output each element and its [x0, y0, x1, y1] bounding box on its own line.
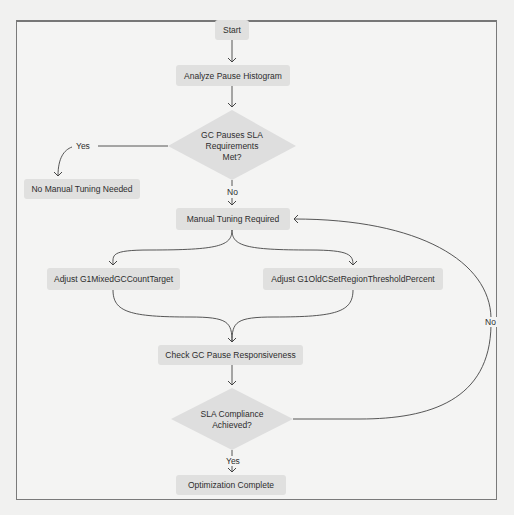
edge-adjust-mixed-check [113, 290, 232, 342]
edge-decision2-no [293, 325, 491, 419]
decision1-text: GC Pauses SLA Requirements Met? [182, 128, 282, 164]
node-adjust-g1oldcsetregionthresholdpercent: Adjust G1OldCSetRegionThresholdPercent [263, 268, 443, 290]
decision1-line3: Met? [223, 152, 242, 163]
node-check-gc-pause-responsiveness: Check GC Pause Responsiveness [158, 345, 303, 365]
edge-manual-adjust-old [232, 230, 353, 265]
edge-label-decision1-yes: Yes [75, 141, 91, 151]
decision1-line1: GC Pauses SLA [201, 130, 263, 141]
node-analyze-pause-histogram: Analyze Pause Histogram [176, 65, 290, 86]
decision2-line2: Achieved? [212, 420, 252, 431]
edge-adjust-old-check [232, 290, 353, 342]
edge-label-decision2-yes: Yes [225, 456, 241, 466]
decision1-line2: Requirements [206, 141, 259, 152]
edge-manual-adjust-mixed [113, 230, 232, 265]
node-no-manual-tuning-needed: No Manual Tuning Needed [24, 179, 140, 199]
edge-label-decision1-no: No [226, 187, 239, 197]
node-adjust-g1mixedgccounttarget: Adjust G1MixedGCCountTarget [47, 268, 180, 290]
decision2-text: SLA Compliance Achieved? [182, 408, 282, 432]
edge-label-decision2-no: No [484, 317, 497, 327]
node-start: Start [215, 20, 249, 40]
node-optimization-complete: Optimization Complete [176, 475, 286, 495]
node-manual-tuning-required: Manual Tuning Required [176, 208, 290, 230]
decision2-line1: SLA Compliance [201, 409, 264, 420]
